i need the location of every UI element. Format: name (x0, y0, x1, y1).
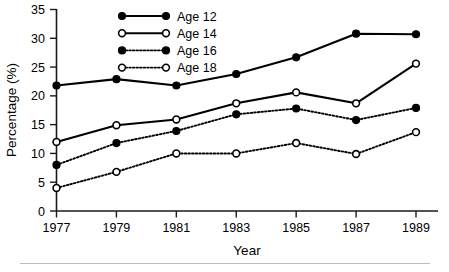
legend-entry-age-12: Age 12 (119, 10, 217, 24)
legend-marker (163, 64, 170, 71)
data-point (293, 140, 300, 147)
x-tick-label: 1989 (402, 221, 430, 235)
legend-entry-age-14: Age 14 (119, 27, 217, 41)
data-point (233, 150, 240, 157)
legend-marker (119, 47, 126, 54)
y-tick-label: 30 (31, 32, 45, 46)
x-tick-label: 1983 (222, 221, 250, 235)
data-point (353, 30, 360, 37)
data-point (53, 185, 60, 192)
x-tick-label: 1987 (342, 221, 370, 235)
legend-marker (163, 30, 170, 37)
y-tick-label: 35 (31, 3, 45, 17)
data-point (353, 117, 360, 124)
data-point (113, 140, 120, 147)
data-point (233, 70, 240, 77)
legend-marker (119, 13, 126, 20)
x-tick-label: 1977 (43, 221, 71, 235)
data-point (233, 111, 240, 118)
x-tick-label: 1979 (103, 221, 131, 235)
line-chart-canvas: 05101520253035 1977197919811983198519871… (0, 0, 449, 272)
y-tick-label: 0 (38, 205, 45, 219)
series-age-16 (53, 104, 420, 168)
data-point (113, 168, 120, 175)
data-point (173, 116, 180, 123)
data-point (53, 161, 60, 168)
x-axis-ticks: 1977197919811983198519871989 (43, 211, 430, 235)
y-axis-ticks: 05101520253035 (31, 3, 56, 219)
legend-marker (119, 30, 126, 37)
chart-figure: 05101520253035 1977197919811983198519871… (0, 0, 449, 272)
data-point (293, 105, 300, 112)
legend-entry-age-16: Age 16 (119, 44, 217, 58)
data-point (113, 76, 120, 83)
data-point (173, 150, 180, 157)
series-age-12 (53, 30, 420, 89)
y-tick-label: 5 (38, 176, 45, 190)
x-tick-label: 1985 (282, 221, 310, 235)
legend-marker (163, 13, 170, 20)
y-tick-label: 25 (31, 61, 45, 75)
data-point (293, 54, 300, 61)
legend-marker (163, 47, 170, 54)
data-point (173, 82, 180, 89)
data-point (353, 100, 360, 107)
series-group (53, 30, 420, 191)
data-point (413, 104, 420, 111)
y-tick-label: 20 (31, 89, 45, 103)
y-tick-label: 10 (31, 147, 45, 161)
series-age-18 (53, 129, 419, 192)
chart-legend: Age 12Age 14Age 16Age 18 (119, 10, 217, 76)
series-path (57, 132, 417, 188)
data-point (233, 100, 240, 107)
data-point (53, 139, 60, 146)
data-point (173, 127, 180, 134)
legend-label: Age 18 (177, 61, 217, 75)
data-point (113, 122, 120, 129)
data-point (353, 151, 360, 158)
legend-label: Age 16 (177, 44, 217, 58)
data-point (413, 129, 420, 136)
legend-label: Age 12 (177, 10, 217, 24)
y-tick-label: 15 (31, 118, 45, 132)
data-point (293, 89, 300, 96)
data-point (413, 60, 420, 67)
x-tick-label: 1981 (162, 221, 190, 235)
data-point (413, 31, 420, 38)
data-point (53, 82, 60, 89)
legend-label: Age 14 (177, 27, 217, 41)
x-axis-title: Year (233, 243, 261, 258)
legend-marker (119, 64, 126, 71)
axes (57, 9, 439, 211)
legend-entry-age-18: Age 18 (119, 61, 217, 75)
y-axis-title: Percentage (%) (4, 63, 19, 157)
